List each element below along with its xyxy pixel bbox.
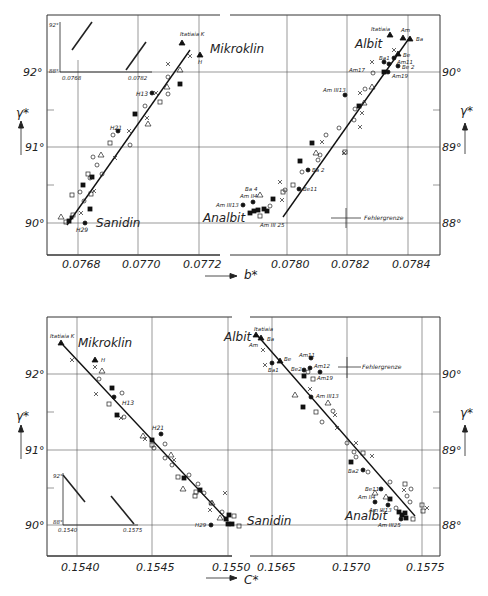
top-x-tick-4: 0.0782 <box>331 258 370 271</box>
top-y-right-88: 88° <box>442 217 462 230</box>
bottom-y-left-90: 90° <box>25 519 45 532</box>
inset-top-y-bottom: 88° <box>49 68 59 74</box>
top-x-tick-1: 0.0770 <box>122 258 161 271</box>
pt-am3-25: Am III 25 <box>259 222 285 228</box>
top-x-tick-0: 0.0768 <box>62 258 101 271</box>
pt-am2-4-c: Am II4 <box>357 494 376 500</box>
top-y-right-90: 90° <box>442 66 462 79</box>
inset-bottom-y-bottom: 88° <box>53 519 63 525</box>
inset-bottom-y-top: 92° <box>53 473 63 479</box>
top-x-tick-5: 0.0784 <box>392 258 431 271</box>
pt-am2-4: Am II4 <box>239 193 258 199</box>
top-y-left-90: 90° <box>25 217 45 230</box>
pt-ba2: Ba 2 <box>312 167 325 173</box>
inset-top-x-left: 0.0768 <box>62 75 82 81</box>
pt-h13-c: H13 <box>122 399 134 406</box>
bottom-y-left-92: 92° <box>25 368 45 381</box>
pt-am3-13b: Am III13 <box>215 202 239 208</box>
label-albit: Albit <box>354 37 383 51</box>
top-x-tick-3: 0.0780 <box>271 258 310 271</box>
pt-be11: Be11 <box>303 186 317 192</box>
bottom-x-tick-5: 0.1575 <box>406 561 445 574</box>
pt-ba2-c: Ba2 <box>348 468 359 474</box>
label-mikroklin: Mikroklin <box>210 42 264 56</box>
bottom-x-tick-1: 0.1545 <box>136 561 175 574</box>
top-y-left-axis-label: γ* <box>16 106 29 120</box>
bottom-inset <box>63 473 138 525</box>
error-cross-c <box>338 357 361 378</box>
pt-am12-c: Am12 <box>313 363 331 369</box>
top-cross-markers <box>79 48 396 215</box>
top-x-tick-2: 0.0772 <box>183 258 222 271</box>
bottom-y-left-axis-label: γ* <box>16 409 29 423</box>
top-y-right-axis-label: γ* <box>460 104 473 118</box>
pt-ba1-c: Ba1 <box>268 367 279 373</box>
label-fehlergrenze-c: Fehlergrenze <box>362 363 402 371</box>
pt-h21-c: H21 <box>152 424 164 431</box>
inset-bottom-x-right: 0.1575 <box>123 527 143 533</box>
bottom-y-right-89: 89° <box>442 444 462 457</box>
label-sanidin: Sanidin <box>96 216 140 230</box>
top-x-axis-label: b* <box>244 268 258 282</box>
inset-bottom-x-left: 0.1540 <box>58 527 78 533</box>
pt-h13: H13 <box>136 90 148 97</box>
pt-h-c: H <box>101 357 105 363</box>
pt-am3-25-c: Am III25 <box>377 522 401 528</box>
pt-be-c: Be <box>284 356 292 362</box>
pt-ba: Ba <box>416 36 424 42</box>
bottom-annotations: Mikroklin Sanidin Albit Analbit Fehlergr… <box>50 326 402 533</box>
bottom-y-right-88: 88° <box>442 519 462 532</box>
pt-am17: Am17 <box>348 67 366 73</box>
pt-am19: Am19 <box>391 73 409 79</box>
pt-h29: H29 <box>76 226 88 233</box>
pt-h29-c: H29 <box>195 522 207 528</box>
bottom-markers <box>58 332 408 527</box>
top-y-left-91: 91° <box>25 141 45 154</box>
label-analbit: Analbit <box>202 211 246 225</box>
pt-itatiaia-c: Itatiaia <box>254 326 274 332</box>
pt-am19-c: Am19 <box>316 375 334 381</box>
pt-am3-13b-c: Am III13 <box>368 507 392 513</box>
pt-am3-13: Am III13 <box>322 87 346 93</box>
pt-ba1: Ba1 <box>379 55 390 61</box>
label-sanidin-c: Sanidin <box>247 514 291 528</box>
inset-top-y-top: 92° <box>49 22 59 28</box>
bottom-y-right-axis-label: γ* <box>460 406 473 420</box>
pt-am-c: Am <box>248 342 258 348</box>
inset-top-x-right: 0.0782 <box>128 75 148 81</box>
bottom-y-right-90: 90° <box>442 368 462 381</box>
pt-be: Be <box>403 52 411 58</box>
bottom-x-axis-label: C* <box>244 573 258 587</box>
top-y-left-92: 92° <box>23 66 43 79</box>
bottom-y-left-91: 91° <box>25 444 45 457</box>
top-annotations: Mikroklin Sanidin Albit Analbit Fehlergr… <box>49 22 424 233</box>
pt-itatiaia-k-c: Itatiaia K <box>50 333 75 339</box>
pt-am: Am <box>400 27 410 33</box>
label-fehlergrenze: Fehlergrenze <box>364 214 404 222</box>
pt-am3-13-c: Am III13 <box>315 393 339 399</box>
pt-am11-c: Am11 <box>298 352 315 358</box>
error-cross <box>331 208 361 228</box>
pt-be2: Be 2 <box>402 64 415 70</box>
bottom-x-tick-0: 0.1540 <box>61 561 100 574</box>
pt-itatiaia-k: Itatiaia K <box>180 31 205 37</box>
pt-ba-c: Ba <box>267 336 275 342</box>
bottom-x-tick-3: 0.1565 <box>257 561 296 574</box>
top-y-right-89: 89° <box>442 141 462 154</box>
bottom-axis-arrows <box>19 425 468 581</box>
figure: 0.0768 0.0770 0.0772 0.0780 0.0782 0.078… <box>0 0 488 596</box>
pt-h21: H21 <box>110 124 122 131</box>
pt-be2-c: Be2 <box>291 366 302 372</box>
label-mikroklin-c: Mikroklin <box>78 336 132 350</box>
bottom-axis-labels: 0.1540 0.1545 0.1550 0.1565 0.1570 0.157… <box>16 368 473 587</box>
pt-be11-c: Be11 <box>365 486 379 492</box>
pt-h: H <box>198 59 202 65</box>
pt-itatiaia: Itatiaia <box>371 26 391 32</box>
top-axis-labels: 0.0768 0.0770 0.0772 0.0780 0.0782 0.078… <box>16 66 473 282</box>
pt-ba4: Ba 4 <box>245 186 258 192</box>
bottom-x-tick-4: 0.1570 <box>332 561 371 574</box>
